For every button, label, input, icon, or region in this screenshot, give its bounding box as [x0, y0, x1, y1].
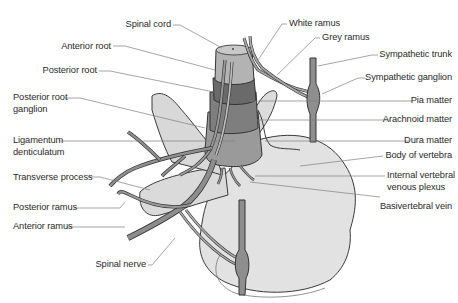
- label-anterior-root: Anterior root: [45, 41, 111, 52]
- label-sympathetic-ganglion: Sympathetic ganglion: [360, 72, 452, 83]
- label-transverse-process: Transverse process: [13, 172, 93, 183]
- sympathetic-trunk-upper: [307, 58, 320, 142]
- spinal-anatomy-diagram: Spinal cord Anterior root Posterior root…: [0, 0, 458, 303]
- label-ligamentum-denticulatum-line2: denticulatum: [13, 147, 65, 158]
- label-posterior-root-ganglion-line2: ganglion: [13, 104, 47, 115]
- label-dura-matter: Dura matter: [400, 135, 452, 146]
- label-spinal-nerve: Spinal nerve: [86, 259, 146, 270]
- label-ligamentum-denticulatum-line1: Ligamentum: [13, 135, 63, 146]
- label-basivertebral-vein: Basivertebral vein: [360, 201, 452, 212]
- label-arachnoid-matter: Arachnoid matter: [380, 114, 452, 125]
- label-sympathetic-trunk: Sympathetic trunk: [370, 49, 452, 60]
- label-white-ramus: White ramus: [289, 18, 340, 29]
- label-posterior-root: Posterior root: [30, 65, 97, 76]
- label-body-of-vertebra: Body of vertebra: [370, 150, 452, 161]
- label-internal-vertebral-venous-plexus-line2: venous plexus: [387, 182, 445, 193]
- label-posterior-ramus: Posterior ramus: [13, 202, 77, 213]
- label-spinal-cord: Spinal cord: [115, 19, 171, 30]
- label-internal-vertebral-venous-plexus-line1: Internal vertebral: [387, 170, 455, 181]
- label-posterior-root-ganglion-line1: Posterior root: [13, 92, 67, 103]
- label-anterior-ramus: Anterior ramus: [13, 221, 73, 232]
- label-pia-matter: Pia matter: [400, 95, 452, 106]
- label-grey-ramus: Grey ramus: [322, 32, 370, 43]
